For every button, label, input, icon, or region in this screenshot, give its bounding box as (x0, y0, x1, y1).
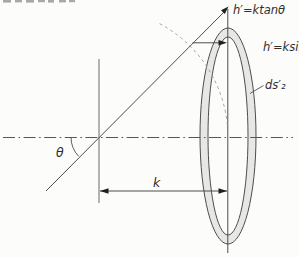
label-h-ksin-theta: h′=ksinθ (263, 40, 299, 54)
figure-canvas: h′=ktanθ h′=ksinθ ds′₂ k θ (0, 0, 299, 257)
label-theta: θ (56, 145, 64, 160)
label-k: k (153, 175, 161, 190)
label-ds2: ds′₂ (265, 78, 286, 92)
diagram-svg: h′=ktanθ h′=ksinθ ds′₂ k θ (0, 0, 299, 257)
label-h-ktan-theta: h′=ktanθ (233, 3, 285, 17)
